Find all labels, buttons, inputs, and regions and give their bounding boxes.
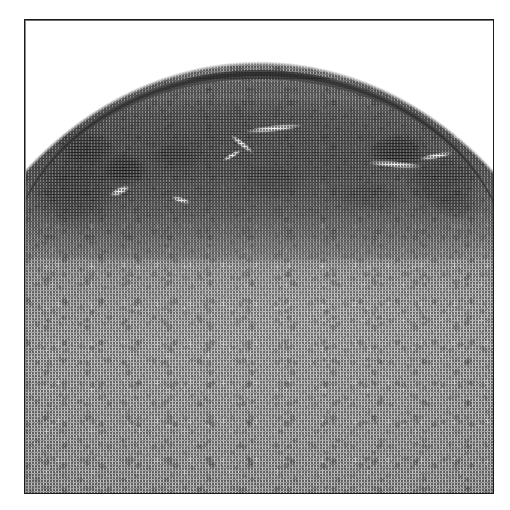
micrograph-frame <box>24 19 494 494</box>
tissue-specimen <box>24 48 494 494</box>
caption-area <box>24 497 494 507</box>
halftone-highlight-layer <box>24 48 494 494</box>
figure-root <box>0 0 510 510</box>
